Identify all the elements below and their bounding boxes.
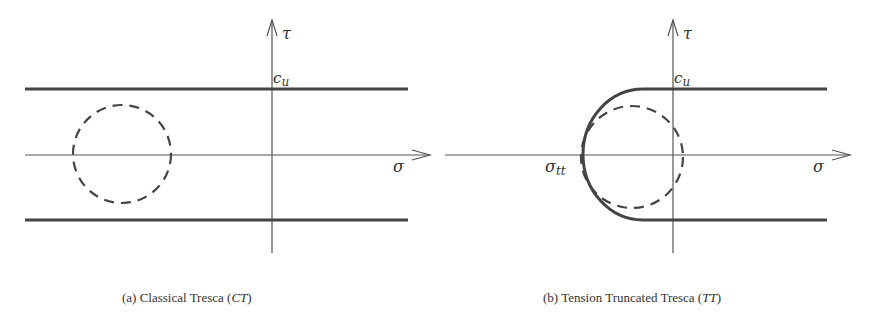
- panel-a-classical-tresca: τ σ cu: [25, 20, 430, 253]
- cu-label-b: cu: [674, 69, 690, 89]
- panel-b-tension-truncated-tresca: τ σ cu σtt: [445, 20, 850, 253]
- caption-a-abbrev: CT: [231, 290, 247, 305]
- caption-b-abbrev: TT: [702, 290, 716, 305]
- mohr-circle-dashed-a: [73, 105, 171, 203]
- caption-b: (b) Tension Truncated Tresca (TT): [543, 290, 721, 306]
- sigma-label-a: σ: [393, 157, 405, 176]
- caption-b-prefix: (b) Tension Truncated Tresca (: [543, 290, 702, 305]
- tau-label-b: τ: [683, 24, 693, 43]
- caption-a-prefix: (a) Classical Tresca (: [122, 290, 231, 305]
- sigma-tt-label-b: σtt: [545, 157, 566, 178]
- caption-a: (a) Classical Tresca (CT): [122, 290, 252, 306]
- figure-canvas: τ σ cu τ σ cu σtt: [0, 0, 875, 329]
- cu-label-a: cu: [273, 69, 289, 89]
- sigma-label-b: σ: [813, 157, 825, 176]
- caption-b-suffix: ): [717, 290, 721, 305]
- mohr-circle-dashed-b: [581, 106, 683, 208]
- tau-label-a: τ: [282, 24, 292, 43]
- caption-a-suffix: ): [247, 290, 251, 305]
